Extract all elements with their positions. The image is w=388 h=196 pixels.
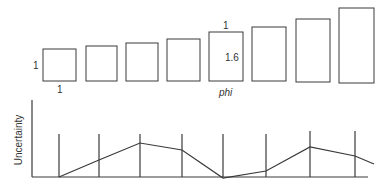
rectangle-1	[43, 49, 76, 81]
rectangle-6	[252, 27, 286, 81]
uncertainty-axis-label: Uncertainty	[13, 115, 24, 166]
golden-rect-height-label: 1.6	[225, 52, 239, 63]
rectangle-sequence	[43, 8, 374, 83]
phi-label: phi	[218, 87, 233, 98]
rectangle-7	[296, 19, 330, 82]
rectangle-4	[167, 39, 200, 81]
first-rect-height-label: 1	[33, 60, 39, 71]
first-rect-width-label: 1	[57, 84, 63, 95]
diagram-canvas: 1 1 1 1.6 phi Uncertainty	[0, 0, 388, 196]
uncertainty-curve	[59, 143, 374, 178]
vertical-markers	[59, 131, 355, 177]
rectangle-8	[339, 8, 374, 83]
rectangle-2	[86, 46, 117, 81]
golden-rect-width-label: 1	[223, 20, 229, 31]
rectangle-3	[126, 43, 158, 81]
